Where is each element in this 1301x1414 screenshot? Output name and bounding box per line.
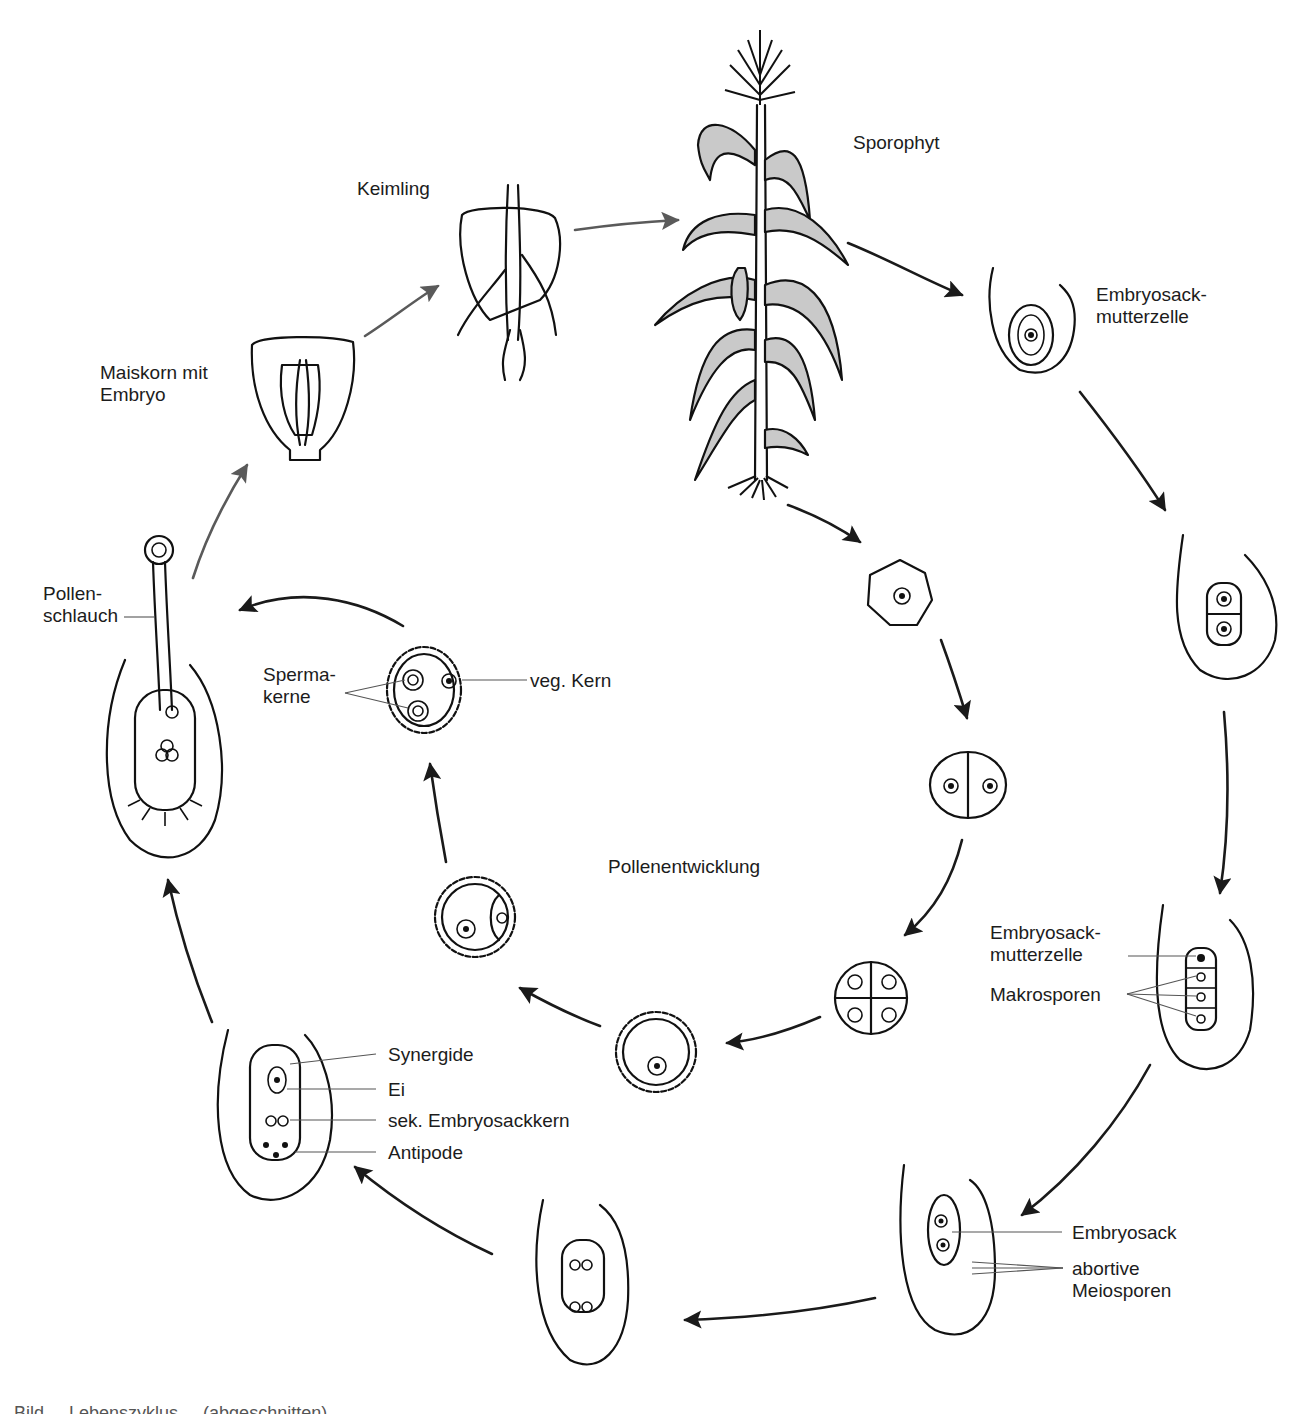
megaspores-ovule-icon	[1157, 905, 1253, 1069]
label-synergide: Synergide	[388, 1044, 474, 1066]
label-makrosporen: Makrosporen	[990, 984, 1101, 1006]
label-pollenentwicklung: Pollenentwicklung	[608, 856, 760, 878]
eight-nucleate-ovule-icon	[536, 1200, 628, 1364]
figure-caption-cut-off: Bild ... Lebenszyklus ... (abgeschnitten…	[14, 1402, 327, 1414]
pollen-tetrad-icon	[835, 962, 907, 1034]
diagram-artwork	[0, 0, 1301, 1414]
label-abortive-meiosporen: abortive Meiosporen	[1072, 1258, 1171, 1302]
label-embryosackmutterzelle: Embryosack- mutterzelle	[990, 922, 1101, 966]
label-sporophyt: Sporophyt	[853, 132, 940, 154]
fertilized-ovule-icon	[107, 536, 222, 857]
mature-pollen-grain-icon	[387, 647, 461, 733]
microspore-icon	[616, 1012, 696, 1092]
embryo-sac-ovule-icon	[901, 1165, 995, 1334]
pollen-mother-cell-icon	[868, 560, 932, 625]
pollen-dyad-icon	[930, 752, 1006, 818]
label-spermakerne: Sperma- kerne	[263, 664, 336, 708]
maize-kernel-icon	[252, 337, 354, 460]
label-veg-kern: veg. Kern	[530, 670, 611, 692]
pollen-binucleate-icon	[435, 877, 515, 957]
maize-plant-icon	[655, 30, 848, 500]
megaspore-mother-cell-ovule-icon	[990, 268, 1075, 373]
label-maiskorn: Maiskorn mit Embryo	[100, 362, 208, 406]
maize-life-cycle-diagram: Sporophyt Keimling Maiskorn mit Embryo P…	[0, 0, 1301, 1414]
seedling-icon	[458, 185, 560, 380]
mature-embryo-sac-ovule-icon	[218, 1030, 332, 1200]
label-sek-embryosackkern: sek. Embryosackkern	[388, 1110, 570, 1132]
label-embryosack: Embryosack	[1072, 1222, 1177, 1244]
label-pollenschlauch: Pollen- schlauch	[43, 583, 118, 627]
label-keimling: Keimling	[357, 178, 430, 200]
dyad-ovule-icon	[1177, 535, 1276, 679]
label-ei: Ei	[388, 1079, 405, 1101]
label-embryosackmutterzelle-top: Embryosack- mutterzelle	[1096, 284, 1207, 328]
label-antipode: Antipode	[388, 1142, 463, 1164]
